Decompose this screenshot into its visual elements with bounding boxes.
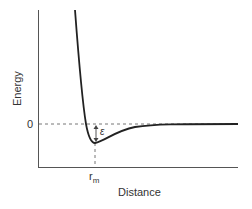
potential-curve [75,10,238,143]
rm-subscript: m [93,176,100,185]
epsilon-label: ε [100,126,105,137]
x-tick-rm: rm [89,170,100,185]
y-axis-label: Energy [11,71,23,106]
epsilon-arrow-head-up [94,125,99,129]
chart: ε 0 rm Distance Energy [0,0,252,209]
x-axis-label: Distance [118,186,161,198]
y-tick-zero: 0 [27,118,33,130]
